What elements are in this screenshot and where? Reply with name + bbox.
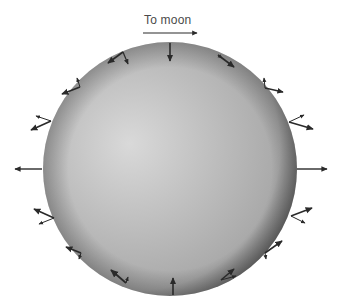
tidal-force-diagram: To moon <box>0 0 341 306</box>
earth-rim-shading <box>43 42 297 296</box>
to-moon-label: To moon <box>144 13 191 27</box>
force-arrow-icon <box>291 216 305 223</box>
force-arrow-icon <box>39 218 54 224</box>
diagram-canvas <box>0 0 341 306</box>
force-arrow-icon <box>289 115 304 122</box>
force-arrow-icon <box>291 208 312 216</box>
force-arrow-icon <box>265 253 266 259</box>
force-arrow-icon <box>36 116 51 121</box>
force-arrow-icon <box>289 122 313 129</box>
force-arrow-icon <box>31 121 51 130</box>
